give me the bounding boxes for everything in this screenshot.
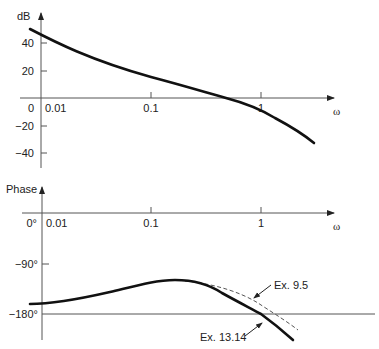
y-tick-label-20: 20 — [22, 65, 34, 77]
x-tick-label-0.1: 0.1 — [143, 102, 158, 114]
x-tick-label-1-phase: 1 — [258, 217, 264, 229]
db-axis-label: dB — [17, 10, 30, 22]
x-tick-label-0.1-phase: 0.1 — [143, 217, 158, 229]
magnitude-plot: dB ω 40 20 0 −20 −40 0.01 0.1 1 — [15, 10, 340, 168]
y-tick-label-0deg: 0° — [26, 217, 37, 229]
omega-axis-label: ω — [333, 105, 340, 117]
bode-plot-figure: dB ω 40 20 0 −20 −40 0.01 0.1 1 Phase ω … — [0, 0, 379, 349]
y-tick-label-m20: −20 — [15, 120, 34, 132]
phase-plot: Phase ω 0° −90° −180° 0.01 0.1 1 Ex. 9.5… — [6, 183, 375, 343]
omega-axis-label-phase: ω — [333, 220, 340, 232]
y-tick-label-40: 40 — [22, 37, 34, 49]
annotation-ex-9-5: Ex. 9.5 — [274, 279, 308, 291]
x-tick-label-0.01-phase: 0.01 — [46, 217, 67, 229]
x-tick-label-0.01: 0.01 — [45, 102, 66, 114]
y-tick-label-m90deg: −90° — [15, 258, 38, 270]
y-tick-label-m40: −40 — [15, 147, 34, 159]
phase-axis-label: Phase — [6, 183, 37, 195]
ex-13-14-leader-arrow — [245, 323, 262, 336]
magnitude-curve — [30, 29, 314, 143]
y-tick-label-m180deg: −180° — [9, 308, 38, 320]
phase-curve-ex-13-14 — [30, 280, 293, 340]
y-tick-label-0: 0 — [28, 102, 34, 114]
ex-9-5-leader-arrow — [254, 285, 271, 298]
annotation-ex-13-14: Ex. 13.14 — [200, 331, 246, 343]
